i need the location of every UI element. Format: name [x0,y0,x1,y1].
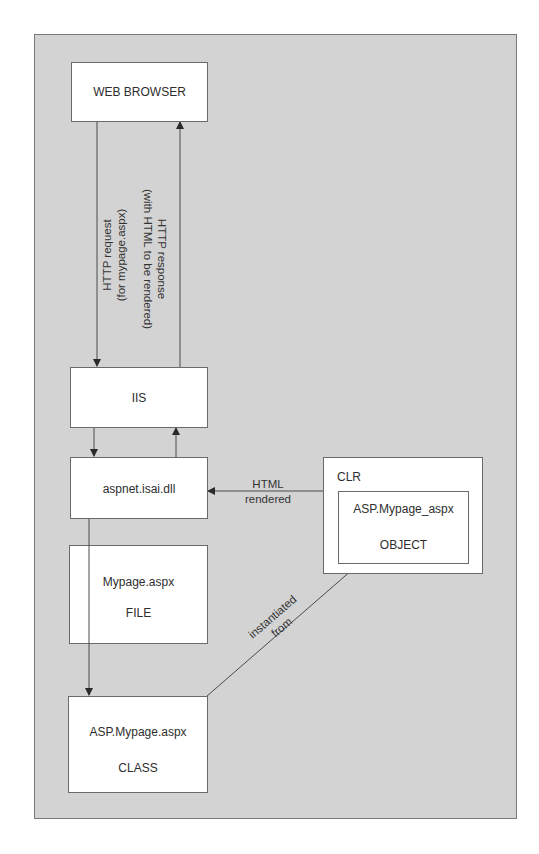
clr-label: CLR [337,470,361,484]
aspnet-isapi-node: aspnet.isai.dll [70,457,208,519]
http-request-line2: (for mypage.aspx) [114,190,128,320]
class-name-label: ASP.Mypage.aspx [69,725,207,739]
http-request-line1: HTTP request [100,190,114,320]
http-response-line2: (with HTML to be rendered) [141,179,155,339]
html-rendered-line2: rendered [238,492,298,507]
http-response-line1: HTTP response [155,179,169,339]
clr-node: CLR ASP.Mypage_aspx OBJECT [323,457,483,574]
http-request-label: HTTP request (for mypage.aspx) [100,190,128,320]
object-node: ASP.Mypage_aspx OBJECT [338,491,469,564]
html-rendered-line1: HTML [238,477,298,492]
class-node: ASP.Mypage.aspx CLASS [68,696,208,793]
http-response-label: HTTP response (with HTML to be rendered) [141,179,169,339]
iis-label: IIS [71,391,207,405]
object-type-label: OBJECT [339,538,468,552]
file-type-label: FILE [70,606,207,620]
web-browser-node: WEB BROWSER [71,62,208,122]
iis-node: IIS [70,367,208,428]
class-type-label: CLASS [69,761,207,775]
file-node: Mypage.aspx FILE [69,545,208,644]
web-browser-label: WEB BROWSER [72,85,207,99]
file-name-label: Mypage.aspx [70,575,207,589]
html-rendered-label: HTML rendered [238,477,298,507]
object-name-label: ASP.Mypage_aspx [339,502,468,516]
aspnet-isapi-label: aspnet.isai.dll [71,482,207,496]
